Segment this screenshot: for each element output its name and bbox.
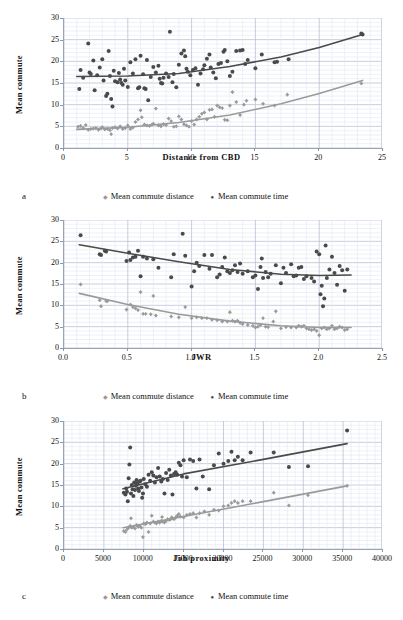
legend-label-distance: Mean commute distance: [111, 391, 194, 401]
diamond-marker-icon: ◆: [101, 193, 110, 200]
y-axis-tick-label: 25: [37, 237, 59, 245]
x-axis-tick-mark: [382, 148, 383, 151]
x-axis-tick-mark: [63, 148, 64, 151]
circle-marker-icon: ●: [208, 194, 217, 200]
y-axis-tick-label: 10: [37, 301, 59, 309]
y-axis-title: Mean commute: [14, 457, 24, 516]
y-axis-tick-label: 15: [37, 280, 59, 288]
y-axis-tick-label: 5: [37, 524, 59, 532]
y-axis-tick-label: 20: [37, 57, 59, 65]
x-axis-tick-mark: [318, 148, 319, 151]
y-axis-tick-label: 10: [37, 502, 59, 510]
x-axis-tick-mark: [191, 348, 192, 351]
legend-label-distance: Mean commute distance: [111, 191, 194, 201]
x-axis-tick-mark: [254, 348, 255, 351]
y-axis-tick-label: 30: [37, 216, 59, 224]
y-axis-title: Mean commute: [14, 256, 24, 315]
figure-panel-c: Mean commute0510152025300500010000150002…: [0, 401, 403, 620]
y-axis-tick-label: 0: [37, 344, 59, 352]
legend-label-time: Mean commute time: [218, 191, 288, 201]
y-axis-tick-label: 15: [37, 481, 59, 489]
y-axis-tick-label: 5: [37, 122, 59, 130]
y-axis-tick-label: 30: [37, 14, 59, 22]
y-axis-tick-label: 20: [37, 259, 59, 267]
chart-legend: ◆Mean commute distance●Mean commute time: [0, 391, 403, 401]
legend-item-mean-commute-distance[interactable]: ◆Mean commute distance: [101, 391, 194, 401]
panel-letter-b: b: [22, 391, 27, 401]
x-axis-tick-mark: [127, 348, 128, 351]
x-axis-tick-mark: [143, 549, 144, 552]
x-axis-title: JWR: [0, 352, 403, 362]
x-axis-tick-mark: [63, 348, 64, 351]
x-axis-title: Job proximity: [0, 553, 403, 563]
x-axis-tick-mark: [302, 549, 303, 552]
x-axis-tick-mark: [382, 348, 383, 351]
x-axis-tick-mark: [342, 549, 343, 552]
plot-area: [63, 18, 382, 148]
x-axis-tick-mark: [127, 148, 128, 151]
chart-legend: ◆Mean commute distance●Mean commute time: [0, 191, 403, 201]
y-axis-line: [63, 421, 64, 549]
plot-area: [63, 220, 382, 348]
chart-legend: ◆Mean commute distance●Mean commute time: [0, 591, 403, 601]
legend-label-distance: Mean commute distance: [111, 591, 194, 601]
legend-item-mean-commute-distance[interactable]: ◆Mean commute distance: [101, 191, 194, 201]
series-commute-distance: [76, 80, 363, 136]
y-axis-tick-label: 0: [37, 545, 59, 553]
y-axis-tick-label: 5: [37, 323, 59, 331]
x-axis-line: [63, 348, 382, 349]
y-axis-line: [63, 18, 64, 148]
y-axis-tick-label: 0: [37, 144, 59, 152]
x-axis-tick-mark: [262, 549, 263, 552]
y-axis-tick-label: 10: [37, 101, 59, 109]
legend-label-time: Mean commute time: [218, 391, 288, 401]
x-axis-title: Distance from CBD: [0, 152, 403, 162]
circle-marker-icon: ●: [208, 594, 217, 600]
y-axis-tick-label: 15: [37, 79, 59, 87]
legend-item-mean-commute-time[interactable]: ●Mean commute time: [208, 191, 288, 201]
legend-item-mean-commute-distance[interactable]: ◆Mean commute distance: [101, 591, 194, 601]
panel-letter-c: c: [22, 591, 26, 601]
x-axis-tick-mark: [103, 549, 104, 552]
diamond-marker-icon: ◆: [101, 393, 110, 400]
x-axis-tick-mark: [183, 549, 184, 552]
grid-layer: [64, 421, 382, 549]
panel-letter-a: a: [22, 191, 26, 201]
series-commute-distance: [122, 484, 350, 539]
plot-area: [63, 421, 382, 549]
figure-panel-b: Mean commute0510152025300.00.51.01.52.02…: [0, 205, 403, 401]
x-axis-tick-mark: [191, 148, 192, 151]
circle-marker-icon: ●: [208, 394, 217, 400]
x-axis-tick-mark: [223, 549, 224, 552]
y-axis-tick-label: 25: [37, 36, 59, 44]
y-axis-tick-label: 25: [37, 438, 59, 446]
legend-item-mean-commute-time[interactable]: ●Mean commute time: [208, 391, 288, 401]
y-axis-title: Mean commute: [14, 55, 24, 114]
series-commute-time: [77, 30, 365, 109]
diamond-marker-icon: ◆: [101, 593, 110, 600]
figure-panel-a: Mean commute0510152025300510152025Distan…: [0, 0, 403, 205]
x-axis-line: [63, 148, 382, 149]
y-axis-tick-label: 30: [37, 417, 59, 425]
x-axis-tick-mark: [382, 549, 383, 552]
x-axis-tick-mark: [254, 148, 255, 151]
x-axis-tick-mark: [318, 348, 319, 351]
x-axis-tick-mark: [63, 549, 64, 552]
legend-item-mean-commute-time[interactable]: ●Mean commute time: [208, 591, 288, 601]
y-axis-line: [63, 220, 64, 348]
legend-label-time: Mean commute time: [218, 591, 288, 601]
y-axis-tick-label: 20: [37, 460, 59, 468]
